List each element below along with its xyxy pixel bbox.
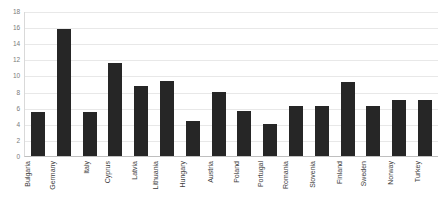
bar-series: [25, 11, 438, 156]
bar[interactable]: [366, 106, 380, 156]
bar[interactable]: [160, 81, 174, 156]
bar-chart: 024681012141618 BulgariaGermanyItalyCypr…: [0, 0, 446, 222]
x-tick-slot: Turkey: [412, 159, 438, 221]
y-axis-tick-label: 12: [13, 57, 20, 64]
bar-slot: [25, 11, 51, 156]
x-tick-slot: Slovenia: [309, 159, 335, 221]
bar-slot: [206, 11, 232, 156]
x-tick-slot: Norway: [386, 159, 412, 221]
y-axis-tick-label: 0: [16, 154, 20, 161]
bar-slot: [102, 11, 128, 156]
y-axis: 024681012141618: [0, 0, 24, 169]
y-axis-tick-label: 4: [16, 122, 20, 129]
bar[interactable]: [289, 106, 303, 156]
bar[interactable]: [212, 92, 226, 156]
bar[interactable]: [418, 100, 432, 156]
x-tick-slot: Latvia: [128, 159, 154, 221]
bar[interactable]: [31, 112, 45, 156]
y-axis-tick-label: 6: [16, 105, 20, 112]
y-axis-tick-label: 18: [13, 9, 20, 16]
x-axis-tick-label: Poland: [233, 161, 240, 183]
bar-slot: [128, 11, 154, 156]
bar-slot: [77, 11, 103, 156]
bar-slot: [257, 11, 283, 156]
bar-slot: [386, 11, 412, 156]
bar-slot: [154, 11, 180, 156]
x-axis-tick-label: Germany: [48, 161, 55, 190]
x-tick-slot: Romania: [283, 159, 309, 221]
y-axis-tick-label: 2: [16, 138, 20, 145]
x-axis-tick-label: Hungary: [179, 161, 186, 187]
bar-slot: [412, 11, 438, 156]
bar[interactable]: [263, 124, 277, 156]
x-tick-slot: Hungary: [179, 159, 205, 221]
gridline: [25, 157, 438, 158]
x-tick-slot: Portugal: [257, 159, 283, 221]
x-axis-tick-label: Norway: [387, 161, 394, 185]
x-tick-slot: Austria: [205, 159, 231, 221]
y-axis-tick-label: 14: [13, 41, 20, 48]
x-tick-slot: Finland: [335, 159, 361, 221]
x-axis-tick-label: Turkey: [414, 161, 421, 182]
bar-slot: [232, 11, 258, 156]
bar[interactable]: [134, 86, 148, 156]
bar[interactable]: [186, 121, 200, 156]
x-axis-tick-label: Romania: [282, 161, 289, 189]
x-tick-slot: Germany: [50, 159, 76, 221]
x-axis-tick-label: Sweden: [361, 161, 368, 186]
y-axis-tick-label: 10: [13, 73, 20, 80]
bar[interactable]: [108, 63, 122, 156]
x-axis-tick-label: Austria: [207, 161, 214, 183]
x-axis: BulgariaGermanyItalyCyprusLatviaLithuani…: [24, 159, 438, 221]
x-axis-tick-label: Latvia: [131, 161, 138, 180]
bar[interactable]: [392, 100, 406, 156]
x-axis-tick-label: Finland: [336, 161, 343, 184]
x-axis-tick-label: Portugal: [257, 161, 264, 187]
bar[interactable]: [315, 106, 329, 156]
x-tick-slot: Lithuania: [153, 159, 179, 221]
bar-slot: [309, 11, 335, 156]
plot-area: [24, 12, 438, 157]
x-axis-tick-label: Lithuania: [152, 161, 159, 189]
bar-slot: [180, 11, 206, 156]
x-tick-slot: Sweden: [360, 159, 386, 221]
bar[interactable]: [237, 111, 251, 156]
x-axis-tick-label: Italy: [82, 161, 89, 174]
x-axis-tick-label: Bulgaria: [24, 161, 31, 187]
x-tick-slot: Cyprus: [102, 159, 128, 221]
y-axis-tick-label: 16: [13, 25, 20, 32]
y-axis-tick-label: 8: [16, 89, 20, 96]
bar-slot: [51, 11, 77, 156]
x-axis-tick-label: Cyprus: [103, 161, 110, 183]
bar-slot: [361, 11, 387, 156]
x-tick-slot: Poland: [231, 159, 257, 221]
bar[interactable]: [57, 29, 71, 156]
x-tick-slot: Italy: [76, 159, 102, 221]
bar-slot: [335, 11, 361, 156]
x-tick-slot: Bulgaria: [24, 159, 50, 221]
x-axis-tick-label: Slovenia: [308, 161, 315, 188]
bar[interactable]: [83, 112, 97, 156]
bar[interactable]: [341, 82, 355, 156]
bar-slot: [283, 11, 309, 156]
